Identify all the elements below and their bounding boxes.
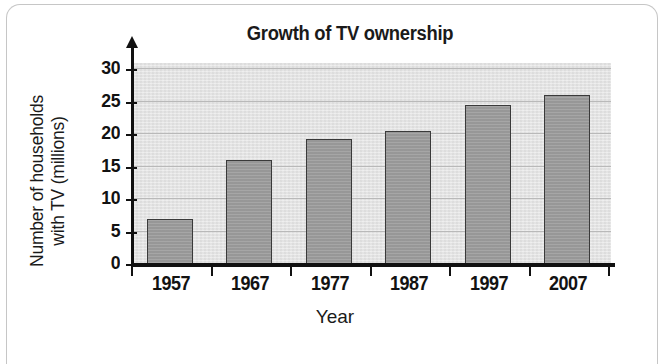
gridline-25	[134, 101, 611, 102]
gridline-5	[134, 231, 611, 232]
bar-1967	[226, 160, 272, 264]
gridline-20	[134, 133, 611, 134]
x-tick-label-1977: 1977	[289, 272, 370, 295]
gridline-15	[134, 166, 611, 167]
gridline-10	[134, 198, 611, 199]
gridline-30	[134, 68, 611, 69]
y-tick-label-20: 20	[83, 122, 120, 144]
y-axis-title-line-2: with TV (millions)	[48, 61, 69, 301]
x-tick-label-2007: 2007	[528, 272, 609, 295]
y-axis-title-line-1: Number of households	[27, 61, 48, 301]
paper-grain-texture	[134, 63, 611, 264]
x-tick-label-1957: 1957	[130, 272, 211, 295]
x-tick-label-1967: 1967	[210, 272, 291, 295]
bar-1957	[147, 219, 193, 264]
y-tick-label-25: 25	[83, 90, 120, 112]
y-axis-arrow-icon	[126, 36, 138, 48]
y-tick-5	[126, 232, 137, 234]
y-tick-label-15: 15	[83, 155, 120, 177]
y-tick-30	[126, 69, 137, 71]
y-tick-label-0: 0	[83, 252, 120, 274]
x-axis-title: Year	[255, 306, 415, 328]
bar-1997	[465, 105, 511, 264]
plot-area	[134, 63, 611, 264]
y-tick-15	[126, 167, 137, 169]
bar-1987	[385, 131, 431, 264]
y-tick-20	[126, 134, 137, 136]
chart-title: Growth of TV ownership	[198, 22, 502, 45]
y-tick-label-10: 10	[83, 187, 120, 209]
y-axis-title: Number of households with TV (millions)	[27, 61, 69, 301]
y-tick-label-5: 5	[83, 220, 120, 242]
y-tick-10	[126, 199, 137, 201]
bar-2007	[544, 95, 590, 264]
y-tick-label-30: 30	[83, 57, 120, 79]
bar-1977	[306, 139, 352, 264]
y-tick-25	[126, 102, 137, 104]
x-tick-label-1987: 1987	[369, 272, 450, 295]
x-tick-label-1997: 1997	[448, 272, 529, 295]
x-axis-line	[131, 263, 615, 267]
